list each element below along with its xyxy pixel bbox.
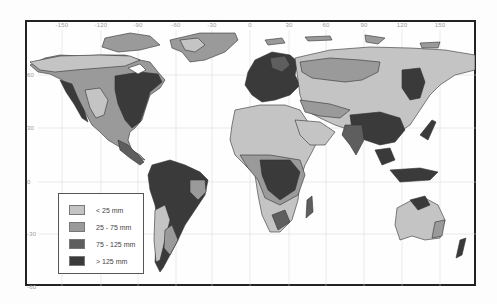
latitude-label: 30	[27, 125, 34, 131]
longitude-label: 150	[435, 22, 446, 28]
greenland	[170, 33, 238, 62]
longitude-label: -60	[171, 22, 180, 28]
longitude-label: -90	[133, 22, 142, 28]
longitude-label: -30	[207, 22, 216, 28]
legend-item-lt25: < 25 mm	[69, 204, 123, 216]
longitude-label: -120	[95, 22, 108, 28]
legend-label: < 25 mm	[96, 207, 123, 214]
legend-item-gt125: > 125 mm	[69, 255, 127, 267]
legend-label: 75 - 125 mm	[96, 241, 135, 248]
legend-label: > 125 mm	[96, 258, 127, 265]
latitude-label: 60	[27, 72, 34, 78]
latitude-label: -60	[27, 284, 36, 290]
legend-swatch	[69, 256, 85, 266]
longitude-label: 90	[360, 22, 367, 28]
legend: < 25 mm 25 - 75 mm 75 - 125 mm > 125 mm	[58, 193, 144, 274]
latitude-label: -30	[27, 231, 36, 237]
legend-swatch	[69, 239, 85, 249]
legend-swatch	[69, 222, 85, 232]
legend-swatch	[69, 205, 85, 215]
longitude-label: 120	[397, 22, 408, 28]
longitude-label: 0	[248, 22, 252, 28]
legend-item-25-75: 25 - 75 mm	[69, 221, 131, 233]
legend-item-75-125: 75 - 125 mm	[69, 238, 135, 250]
longitude-label: -150	[56, 22, 69, 28]
longitude-label: 30	[285, 22, 292, 28]
legend-label: 25 - 75 mm	[96, 224, 131, 231]
latitude-label: 0	[27, 179, 31, 185]
longitude-label: 60	[322, 22, 329, 28]
